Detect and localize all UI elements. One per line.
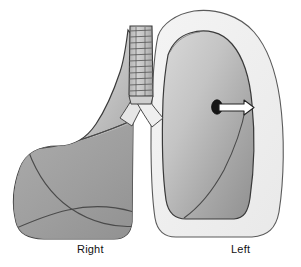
carina — [129, 96, 153, 104]
lung-illustration-canvas — [0, 0, 301, 267]
lung-anatomy-figure: Right Left — [0, 0, 301, 267]
left-lung-collapsed — [162, 31, 253, 219]
right-lower-lobe — [0, 120, 140, 250]
right-lung — [0, 17, 140, 250]
right-lung-label: Right — [77, 243, 104, 255]
trachea — [128, 26, 154, 102]
left-lung-label: Left — [231, 243, 250, 255]
